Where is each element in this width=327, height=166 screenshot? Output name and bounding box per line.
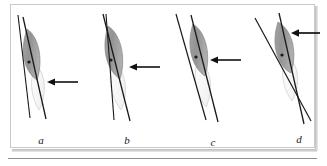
panel-b-arrow-icon — [129, 63, 160, 70]
panel-label-a: a — [31, 134, 51, 146]
panel-label-b: b — [117, 134, 137, 146]
panel-a-arrow-icon — [47, 78, 78, 85]
panel-a — [18, 15, 78, 119]
panel-d — [255, 13, 320, 124]
panel-b — [103, 14, 160, 121]
panel-b-center-dot — [109, 58, 112, 61]
panel-c-arrow-icon — [210, 56, 241, 63]
panel-a-center-dot — [27, 60, 30, 63]
panel-c — [176, 14, 241, 122]
panel-label-c: c — [203, 136, 223, 148]
panel-c-center-dot — [194, 55, 197, 58]
panel-b-line-2 — [103, 14, 130, 121]
panel-c-line-2 — [191, 15, 218, 122]
figure-canvas: a b c d — [0, 0, 327, 166]
panel-label-d: d — [289, 133, 309, 145]
panel-d-arrow-icon — [291, 29, 320, 37]
panel-a-line-2 — [23, 17, 46, 119]
panel-d-center-dot — [280, 53, 283, 56]
